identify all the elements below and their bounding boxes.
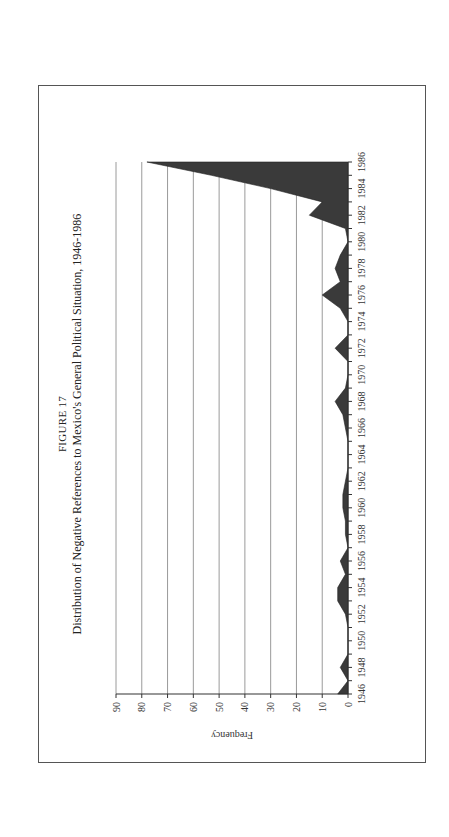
y-tick-label: 0 <box>343 702 354 707</box>
y-tick-label: 70 <box>162 702 173 712</box>
rotated-chart: FIGURE 17 Distribution of Negative Refer… <box>38 85 426 763</box>
x-tick-label: 1980 <box>356 232 367 252</box>
x-tick-label: 1972 <box>356 338 367 358</box>
area-series <box>147 162 348 694</box>
x-tick-label: 1954 <box>356 578 367 598</box>
x-tick-label: 1986 <box>356 152 367 172</box>
x-tick-label: 1964 <box>356 445 367 465</box>
x-tick-label: 1948 <box>356 657 367 677</box>
x-tick-label: 1946 <box>356 684 367 704</box>
y-axis-title: Frequency <box>211 730 253 741</box>
y-tick-label: 50 <box>214 702 225 712</box>
x-tick-label: 1950 <box>356 631 367 651</box>
x-tick-label: 1958 <box>356 524 367 544</box>
x-tick-label: 1970 <box>356 365 367 385</box>
area-chart: 0102030405060708090Frequency194619481950… <box>38 85 426 763</box>
x-tick-label: 1984 <box>356 179 367 199</box>
x-tick-label: 1962 <box>356 471 367 491</box>
x-tick-label: 1978 <box>356 258 367 278</box>
x-tick-label: 1952 <box>356 604 367 624</box>
y-tick-label: 40 <box>239 702 250 712</box>
y-tick-label: 80 <box>136 702 147 712</box>
x-tick-label: 1982 <box>356 205 367 225</box>
y-tick-label: 60 <box>188 702 199 712</box>
y-tick-label: 90 <box>111 702 122 712</box>
x-tick-label: 1960 <box>356 498 367 518</box>
x-tick-label: 1974 <box>356 312 367 332</box>
x-tick-label: 1976 <box>356 285 367 305</box>
x-tick-label: 1968 <box>356 391 367 411</box>
y-tick-label: 30 <box>265 702 276 712</box>
x-tick-label: 1956 <box>356 551 367 571</box>
y-tick-label: 20 <box>291 702 302 712</box>
y-tick-label: 10 <box>317 702 328 712</box>
x-tick-label: 1966 <box>356 418 367 438</box>
